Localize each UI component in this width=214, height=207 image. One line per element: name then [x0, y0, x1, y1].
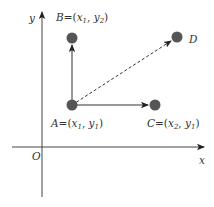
coordinate-diagram: x y O B=(x1, y2) A=(x1, y1) C=(x2, y1) D — [0, 0, 214, 207]
point-a-label: A=(x1, y1) — [50, 117, 103, 131]
point-b — [67, 33, 78, 44]
y-axis-label: y — [28, 12, 36, 24]
vectors — [72, 41, 171, 105]
origin-label: O — [32, 150, 41, 162]
point-a — [67, 100, 78, 111]
vector-a-to-d-dashed — [72, 41, 171, 105]
point-d-label: D — [188, 33, 198, 45]
point-d — [172, 32, 183, 43]
x-axis-label: x — [199, 154, 205, 166]
point-c-label: C=(x2, y1) — [147, 117, 200, 131]
point-c — [150, 100, 161, 111]
point-b-label: B=(x1, y2) — [55, 11, 108, 25]
